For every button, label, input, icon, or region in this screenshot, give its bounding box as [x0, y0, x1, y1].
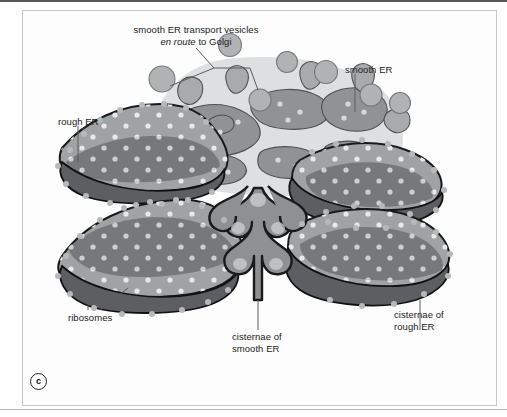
label-ribosomes: ribosomes [68, 312, 112, 324]
vesicle [149, 66, 175, 92]
endoplasmic-reticulum-illustration [0, 0, 507, 417]
figure-page: smooth ER transport vesicles en route to… [0, 0, 507, 417]
label-smooth-er: smooth ER [345, 64, 392, 76]
label-cisternae-rough-line2: rough ER [394, 321, 435, 332]
vesicle [390, 93, 411, 114]
figure-part-marker: c [30, 373, 47, 390]
label-transport-vesicles-line1: smooth ER transport vesicles [134, 24, 259, 35]
vesicle [360, 84, 382, 106]
vesicle [277, 52, 298, 73]
label-transport-vesicles-to-golgi: to Golgi [198, 36, 231, 47]
label-cisternae-smooth-line2: smooth ER [232, 343, 279, 354]
vesicle [315, 61, 338, 84]
label-cisternae-rough-er: cisternae of rough ER [394, 309, 444, 332]
label-cisternae-smooth-er: cisternae of smooth ER [232, 331, 282, 354]
label-transport-vesicles: smooth ER transport vesicles en route to… [96, 24, 296, 47]
label-transport-vesicles-en-route: en route [160, 36, 195, 47]
vesicle [249, 89, 271, 111]
label-cisternae-smooth-line1: cisternae of [232, 331, 282, 342]
label-rough-er: rough ER [58, 116, 99, 128]
rough-er-cisterna-lower-right [285, 209, 449, 305]
label-cisternae-rough-line1: cisternae of [394, 309, 444, 320]
